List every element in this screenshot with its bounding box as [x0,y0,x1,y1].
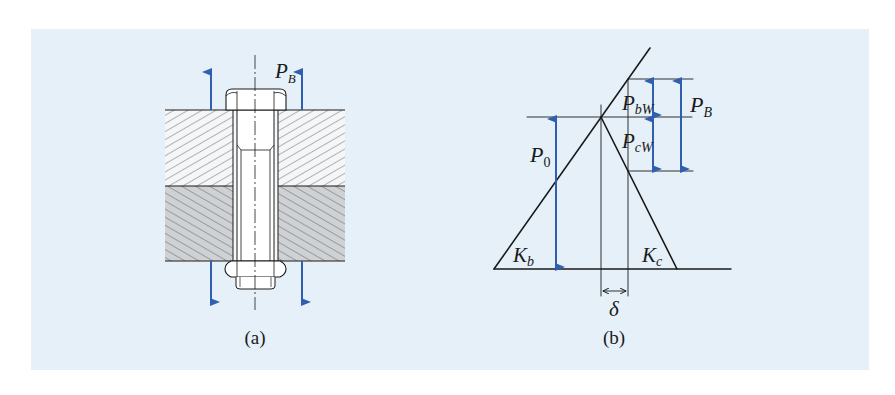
label-P0: P0 [529,142,550,170]
label-PB-a: PB [274,59,296,86]
label-delta: δ [609,297,620,321]
label-PcW: PcW [621,129,654,155]
bolt-stiffness-line [494,48,650,269]
bolted-joint-drawing: PB (a) [165,55,345,349]
nut [225,261,286,289]
label-Kc: Kc [641,243,663,269]
label-PB-b: PB [689,92,712,120]
bolt-shank [237,110,274,261]
caption-b: (b) [603,327,625,349]
label-PbW: PbW [621,91,655,117]
bolt-head [226,89,286,110]
caption-a: (a) [244,327,265,349]
figure-canvas: PB (a) δ P0 PbW PcW PB Kb Kc (b) [0,0,895,395]
label-Kb: Kb [512,243,534,269]
force-deformation-diagram: δ P0 PbW PcW PB Kb Kc (b) [494,48,731,349]
